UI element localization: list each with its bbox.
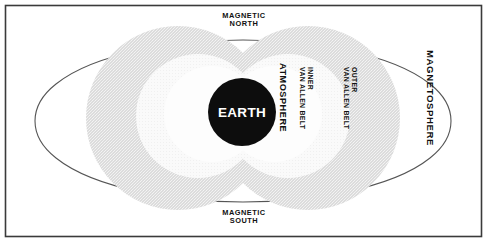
diagram-canvas — [0, 0, 487, 242]
outer-belt-line-2: VAN ALLEN BELT — [343, 67, 351, 129]
magnetic-north-label: MAGNETIC NORTH — [213, 12, 275, 29]
inner-belt-line-1: INNER — [306, 67, 314, 129]
magnetosphere-diagram: MAGNETIC NORTH MAGNETIC SOUTH EARTH ATMO… — [0, 0, 487, 242]
magnetic-north-line-2: NORTH — [213, 20, 275, 28]
magnetic-south-line-2: SOUTH — [213, 217, 275, 225]
outer-belt-line-1: OUTER — [350, 67, 358, 129]
magnetosphere-label: MAGNETOSPHERE — [424, 50, 435, 146]
inner-van-allen-belt-label: INNER VAN ALLEN BELT — [299, 67, 314, 129]
inner-belt-line-2: VAN ALLEN BELT — [299, 67, 307, 129]
magnetic-south-label: MAGNETIC SOUTH — [213, 209, 275, 226]
earth-label: EARTH — [210, 105, 274, 120]
atmosphere-label: ATMOSPHERE — [278, 63, 288, 132]
outer-van-allen-belt-label: OUTER VAN ALLEN BELT — [343, 67, 358, 129]
